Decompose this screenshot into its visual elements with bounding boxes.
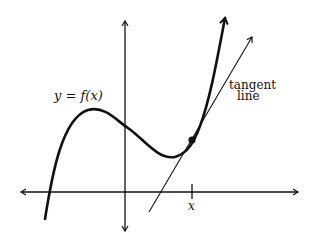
curve-label: y = f(x)	[54, 88, 103, 103]
x-tick-label: x	[188, 199, 195, 213]
tangent-point	[188, 136, 195, 143]
tangent-line-diagram: y = f(x) tangent line x	[0, 0, 316, 240]
tangent-label-line2: line	[237, 90, 260, 102]
function-curve	[45, 18, 225, 219]
diagram-canvas	[0, 0, 316, 240]
